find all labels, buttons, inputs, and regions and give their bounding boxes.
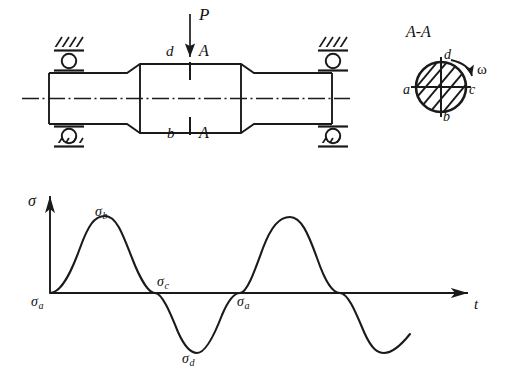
section-label-A-top: A <box>199 43 209 59</box>
annotation-symbol: σ <box>237 294 244 309</box>
support-left-bottom <box>54 127 84 150</box>
section-point-label-c: c <box>469 83 475 97</box>
chart-annotation-sigma-d-trough: σd <box>182 352 194 368</box>
section-label-A-bottom: A <box>199 125 209 141</box>
annotation-symbol: σ <box>182 351 189 366</box>
section-point-label-d: d <box>444 48 451 62</box>
annotation-subscript: b <box>102 210 108 221</box>
chart-annotation-sigma-c-zero: σc <box>157 275 169 291</box>
section-point-label-a: a <box>403 83 410 97</box>
section-point-label-b: b <box>443 110 450 124</box>
annotation-symbol: σ <box>157 274 164 289</box>
chart-annotation-sigma-a-origin: σa <box>31 295 43 311</box>
annotation-symbol: σ <box>31 294 38 309</box>
chart-y-axis-label: σ <box>28 193 36 209</box>
support-right-top <box>318 37 348 71</box>
annotation-subscript: c <box>164 280 169 291</box>
chart-annotation-sigma-b-peak: σb <box>95 205 107 221</box>
support-right-bottom <box>318 127 354 150</box>
stress-time-chart <box>50 196 468 353</box>
annotation-subscript: d <box>189 357 195 368</box>
load-label-P: P <box>199 6 209 23</box>
engineering-figure: P d A b A A-A d b a c ω σ t σa σb σc σd … <box>0 0 512 390</box>
annotation-subscript: a <box>38 300 44 311</box>
shaft-point-label-d: d <box>166 44 174 59</box>
stress-sine-curve <box>50 216 410 353</box>
annotation-symbol: σ <box>95 204 102 219</box>
shaft-point-label-b: b <box>167 126 175 141</box>
chart-annotation-sigma-a-cycle-end: σa <box>237 295 249 311</box>
rotation-label-omega: ω <box>477 62 487 77</box>
annotation-subscript: a <box>244 300 250 311</box>
support-left-top <box>54 37 84 71</box>
chart-x-axis-label: t <box>474 297 478 312</box>
figure-canvas <box>0 0 512 390</box>
cross-section-title: A-A <box>406 24 431 40</box>
